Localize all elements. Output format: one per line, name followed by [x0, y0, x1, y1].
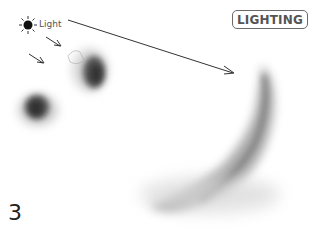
- step-number: 3: [8, 200, 22, 225]
- shaded-sketch-small-top: [68, 48, 108, 92]
- sun-icon: [19, 16, 37, 34]
- sketch-canvas: [0, 0, 319, 231]
- light-direction-arrow-short-1: [46, 37, 61, 46]
- lighting-title-badge: LIGHTING: [232, 10, 308, 29]
- light-label: Light: [39, 19, 61, 29]
- shaded-sketch-swoosh: [140, 65, 280, 213]
- shaded-sketch-small-bottom: [18, 94, 58, 126]
- light-direction-arrow-short-2: [29, 54, 44, 63]
